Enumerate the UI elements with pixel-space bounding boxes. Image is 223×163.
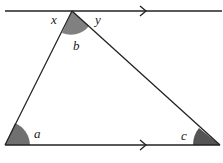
parallel-lines-triangle-diagram: x y b a c	[0, 0, 223, 163]
angle-a-shade	[5, 123, 30, 145]
label-b: b	[73, 38, 80, 53]
label-c: c	[181, 128, 187, 143]
triangle-right-side	[72, 11, 220, 145]
label-a: a	[34, 126, 41, 141]
triangle-left-side	[5, 11, 72, 145]
label-y: y	[93, 12, 101, 27]
label-x: x	[50, 12, 57, 27]
angle-c-shade	[193, 128, 220, 145]
